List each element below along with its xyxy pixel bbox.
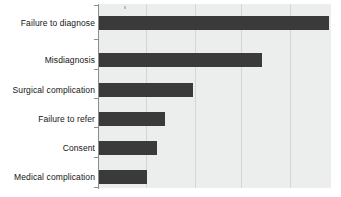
scan-artifact-speck (124, 6, 126, 9)
bar-failure-to-refer[interactable] (99, 112, 165, 126)
y-axis-tick-3 (94, 98, 99, 99)
category-label-failure-to-diagnose: Failure to diagnose (21, 18, 95, 28)
bar-failure-to-diagnose[interactable] (99, 16, 329, 30)
horizontal-bar-chart: Failure to diagnose Misdiagnosis Surgica… (0, 0, 341, 197)
gridline-3 (241, 4, 242, 188)
y-axis-tick-5 (94, 157, 99, 158)
category-label-failure-to-refer: Failure to refer (38, 114, 95, 124)
category-label-surgical-complication: Surgical complication (13, 85, 95, 95)
gridline-2 (195, 4, 196, 188)
y-axis-tick-6 (94, 187, 99, 188)
bar-medical-complication[interactable] (99, 170, 147, 184)
category-label-misdiagnosis: Misdiagnosis (45, 55, 95, 65)
y-axis-tick-0 (94, 5, 99, 6)
y-axis-tick-2 (94, 69, 99, 70)
category-label-medical-complication: Medical complication (14, 172, 95, 182)
bar-surgical-complication[interactable] (99, 83, 193, 97)
y-axis-tick-1 (94, 39, 99, 40)
y-axis-tick-4 (94, 127, 99, 128)
gridline-4 (290, 4, 291, 188)
bar-consent[interactable] (99, 141, 157, 155)
bar-misdiagnosis[interactable] (99, 53, 262, 67)
category-label-consent: Consent (63, 143, 95, 153)
